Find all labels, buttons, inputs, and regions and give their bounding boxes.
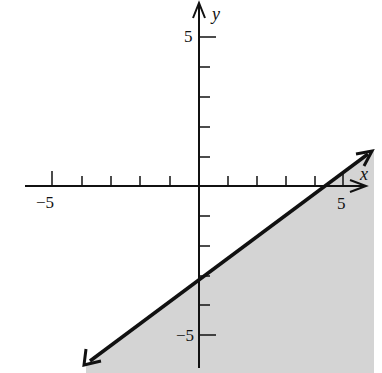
y-tick-label-neg5: −5 [176,326,194,345]
x-tick-label-neg5: −5 [36,193,54,212]
inequality-graph: −5 5 5 −5 x y [0,0,382,373]
y-tick-label-pos5: 5 [184,27,193,46]
x-ticks [52,171,343,186]
x-tick-label-pos5: 5 [337,194,346,213]
coordinate-plane: −5 5 5 −5 x y [0,0,382,373]
x-axis-label: x [359,164,368,184]
y-axis-label: y [210,4,220,24]
